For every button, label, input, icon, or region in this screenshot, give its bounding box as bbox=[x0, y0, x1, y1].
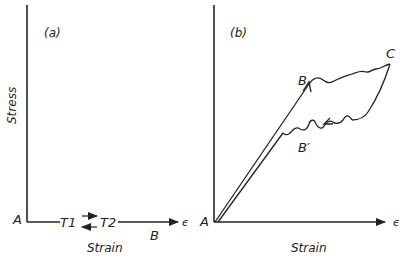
unloading-line bbox=[218, 133, 283, 222]
panel-label-b: (b) bbox=[230, 26, 247, 40]
origin-label-a: A bbox=[12, 212, 22, 227]
point-c: C bbox=[386, 46, 396, 61]
point-t1: T1 bbox=[60, 215, 76, 230]
panel-label-a: (a) bbox=[44, 26, 61, 40]
lower-curve bbox=[283, 116, 352, 135]
panel-b: (b) A B C B′ ϵ Strain bbox=[199, 5, 400, 255]
ylabel-stress: Stress bbox=[5, 87, 19, 124]
point-b-a: B bbox=[150, 228, 159, 243]
upper-curve bbox=[309, 64, 390, 84]
loading-line bbox=[215, 84, 309, 222]
panel-a: (a) A T1 T2 B ϵ Strain Stress bbox=[5, 5, 189, 255]
point-t2: T2 bbox=[100, 215, 116, 230]
stress-strain-diagram: (a) A T1 T2 B ϵ Strain Stress (b) A B C … bbox=[0, 0, 406, 260]
xlabel-b: Strain bbox=[291, 241, 327, 255]
epsilon-a: ϵ bbox=[182, 216, 189, 229]
xlabel-a: Strain bbox=[87, 241, 123, 255]
origin-label-b: A bbox=[199, 214, 209, 229]
epsilon-b: ϵ bbox=[393, 216, 400, 229]
point-b: B bbox=[298, 73, 307, 88]
point-b-prime: B′ bbox=[298, 140, 310, 155]
